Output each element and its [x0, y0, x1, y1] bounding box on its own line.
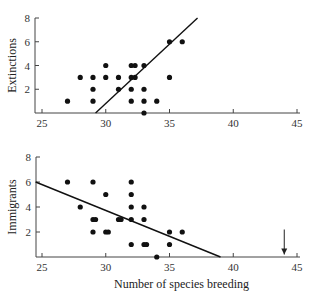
data-point [78, 204, 83, 209]
y-tick-label: 6 [25, 36, 31, 48]
data-point [65, 179, 70, 184]
data-point [129, 179, 134, 184]
data-point [141, 204, 146, 209]
data-point [154, 254, 159, 259]
data-point [129, 87, 134, 92]
data-point [93, 217, 98, 222]
data-point [141, 110, 146, 115]
data-point [144, 242, 149, 247]
x-tick-label: 45 [292, 117, 304, 129]
data-point [116, 75, 121, 80]
data-point [141, 217, 146, 222]
y-tick-label: 8 [25, 12, 31, 24]
extinctions-panel: 24682530354045Extinctions [5, 12, 303, 129]
data-point [129, 242, 134, 247]
x-tick-label: 40 [228, 117, 240, 129]
data-point [116, 87, 121, 92]
data-point [129, 217, 134, 222]
data-point [106, 229, 111, 234]
data-point [78, 75, 83, 80]
data-point [103, 75, 108, 80]
y-tick-label: 2 [25, 83, 31, 95]
data-point [129, 204, 134, 209]
scatter-charts: 24682530354045Extinctions24682530354045I… [0, 0, 314, 291]
data-point [103, 63, 108, 68]
x-tick-label: 25 [37, 117, 49, 129]
data-point [141, 63, 146, 68]
data-point [132, 75, 137, 80]
x-axis-label: Number of species breeding [114, 277, 249, 291]
data-point [65, 99, 70, 104]
data-point [141, 87, 146, 92]
data-point [167, 242, 172, 247]
y-tick-label: 6 [26, 176, 32, 188]
immigrants-panel: 24682530354045ImmigrantsNumber of specie… [5, 151, 303, 291]
data-point [90, 179, 95, 184]
y-tick-label: 4 [26, 201, 32, 213]
y-tick-label: 4 [25, 60, 31, 72]
y-axis-label: Immigrants [5, 179, 19, 235]
y-tick-label: 8 [26, 151, 32, 163]
data-point [118, 217, 123, 222]
data-point [167, 39, 172, 44]
data-point [141, 99, 146, 104]
y-axis-label: Extinctions [5, 38, 19, 93]
data-point [132, 63, 137, 68]
x-tick-label: 35 [164, 117, 176, 129]
data-point [167, 75, 172, 80]
data-point [90, 87, 95, 92]
data-point [129, 192, 134, 197]
data-point [90, 229, 95, 234]
x-tick-label: 40 [228, 261, 240, 273]
x-tick-label: 45 [292, 261, 304, 273]
y-tick-label: 2 [26, 226, 32, 238]
x-tick-label: 30 [100, 117, 112, 129]
x-tick-label: 35 [164, 261, 176, 273]
data-point [90, 75, 95, 80]
x-tick-label: 25 [37, 261, 49, 273]
data-point [154, 99, 159, 104]
data-point [167, 229, 172, 234]
data-point [180, 39, 185, 44]
x-tick-label: 30 [100, 261, 112, 273]
regression-line [36, 182, 221, 257]
data-point [90, 99, 95, 104]
data-point [180, 229, 185, 234]
data-point [129, 99, 134, 104]
data-point [103, 192, 108, 197]
